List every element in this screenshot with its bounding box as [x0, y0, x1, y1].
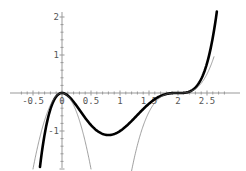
x-tick-label: 0.5 [83, 96, 99, 106]
x-tick-label: 2.5 [199, 96, 215, 106]
origin-label: 0 [59, 96, 64, 106]
function-plot: -0.50.511.522.5021-1 [0, 0, 246, 171]
approximation-curve [132, 57, 214, 171]
main-curve [40, 12, 217, 167]
x-tick-label: 2 [175, 96, 180, 106]
x-tick-label: -0.5 [22, 96, 44, 106]
y-tick-label: 1 [54, 50, 59, 60]
y-tick-label: -1 [48, 126, 59, 136]
curves [33, 12, 217, 171]
x-tick-label: 1 [117, 96, 122, 106]
plot-area: -0.50.511.522.5021-1 [0, 0, 246, 171]
axes: -0.50.511.522.5021-1 [10, 12, 240, 169]
y-tick-label: 2 [54, 12, 59, 22]
